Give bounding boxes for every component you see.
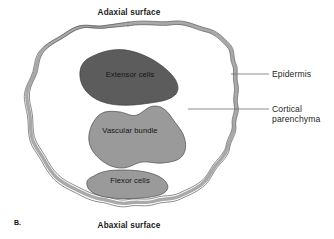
- flexor-cells-label: Flexor cells: [70, 177, 190, 186]
- epidermis-callout-label: Epidermis: [272, 69, 311, 79]
- abaxial-surface-label: Abaxial surface: [0, 221, 258, 231]
- cortical-parenchyma-callout-label: Corticalparenchyma: [272, 104, 320, 124]
- adaxial-surface-label: Adaxial surface: [0, 8, 258, 18]
- panel-label: B.: [14, 219, 21, 227]
- vascular-bundle-region: [89, 106, 186, 168]
- vascular-bundle-label: Vascular bundle: [62, 127, 198, 136]
- pulvinus-cross-section-figure: Adaxial surface Abaxial surface Epidermi…: [0, 0, 334, 239]
- cortical-parenchyma-line-2: parenchyma: [272, 114, 320, 124]
- cortical-parenchyma-line-1: Cortical: [272, 104, 302, 114]
- extensor-cells-label: Extensor cells: [70, 71, 190, 80]
